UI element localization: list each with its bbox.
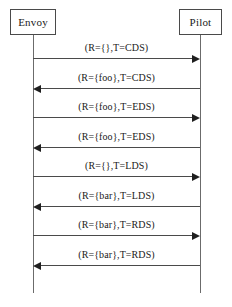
message-label: (R={bar},T=RDS) <box>33 219 200 230</box>
message-label: (R={foo},T=EDS) <box>33 131 200 142</box>
message-label: (R={bar},T=LDS) <box>33 190 200 201</box>
message-line <box>41 206 200 207</box>
message-label: (R={foo},T=CDS) <box>33 72 200 83</box>
participant-label-envoy: Envoy <box>18 16 48 28</box>
message-line <box>41 265 200 266</box>
message-line <box>33 176 193 177</box>
arrowhead-right-icon <box>192 173 200 181</box>
message-label: (R={},T=CDS) <box>33 42 200 53</box>
arrowhead-right-icon <box>192 232 200 240</box>
message-line <box>33 58 193 59</box>
message-line <box>33 235 193 236</box>
arrowhead-left-icon <box>33 144 41 152</box>
participant-label-pilot: Pilot <box>190 16 212 28</box>
participant-box-pilot[interactable]: Pilot <box>179 9 222 35</box>
message-line <box>41 147 200 148</box>
message-line <box>41 88 200 89</box>
message-line <box>33 117 193 118</box>
message-label: (R={},T=LDS) <box>33 160 200 171</box>
sequence-diagram: Envoy Pilot (R={},T=CDS) (R={foo},T=CDS)… <box>0 0 232 307</box>
arrowhead-right-icon <box>192 55 200 63</box>
message-label: (R={bar},T=RDS) <box>33 249 200 260</box>
arrowhead-left-icon <box>33 262 41 270</box>
message-label: (R={foo},T=EDS) <box>33 101 200 112</box>
lifeline-pilot <box>200 35 201 293</box>
arrowhead-left-icon <box>33 203 41 211</box>
arrowhead-left-icon <box>33 85 41 93</box>
participant-box-envoy[interactable]: Envoy <box>10 9 56 35</box>
arrowhead-right-icon <box>192 114 200 122</box>
